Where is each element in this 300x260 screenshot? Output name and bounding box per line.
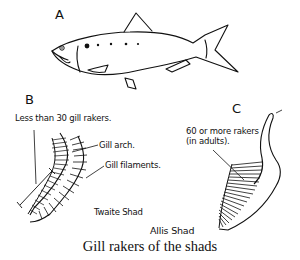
label-60-rakers-line2: (in adults). xyxy=(186,136,230,146)
label-gill-arch: Gill arch. xyxy=(99,140,135,150)
panel-letter-c: C xyxy=(232,101,241,116)
label-gill-filaments: Gill filaments. xyxy=(105,160,161,170)
gill-arch-twaite xyxy=(17,130,104,222)
label-less-than-30-rakers: Less than 30 gill rakers. xyxy=(15,113,111,123)
figure-caption: Gill rakers of the shads xyxy=(0,238,300,255)
panel-letter-a: A xyxy=(55,7,64,22)
label-60-rakers-line1: 60 or more rakers xyxy=(186,126,259,136)
label-allis-shad: Allis Shad xyxy=(150,225,194,236)
fish-illustration xyxy=(52,13,238,89)
fish-spots xyxy=(60,43,139,51)
panel-letter-b: B xyxy=(25,92,34,107)
label-twaite-shad: Twaite Shad xyxy=(94,207,143,217)
